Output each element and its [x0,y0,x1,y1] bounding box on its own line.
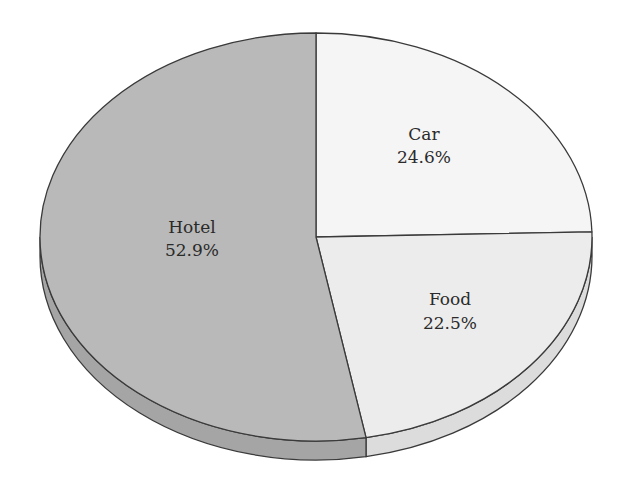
pie-chart: Car 24.6% Food 22.5% Hotel 52.9% [0,0,628,490]
food-label: Food [429,289,471,309]
hotel-percent: 52.9% [165,240,219,260]
car-label: Car [408,124,440,144]
hotel-label: Hotel [168,217,215,237]
pie-top-faces [40,33,592,441]
car-slice [316,33,592,237]
car-percent: 24.6% [397,147,451,167]
food-percent: 22.5% [423,313,477,333]
